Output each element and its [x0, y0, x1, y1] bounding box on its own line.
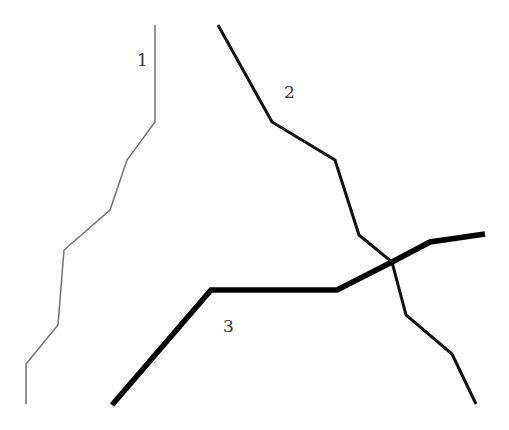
line-2-label: 2 [284, 82, 295, 102]
line-diagram: 1 2 3 [0, 0, 509, 430]
line-2 [218, 25, 476, 404]
line-3-label: 3 [223, 316, 234, 336]
line-1 [26, 25, 155, 404]
line-1-label: 1 [137, 50, 148, 70]
line-3 [112, 234, 485, 405]
